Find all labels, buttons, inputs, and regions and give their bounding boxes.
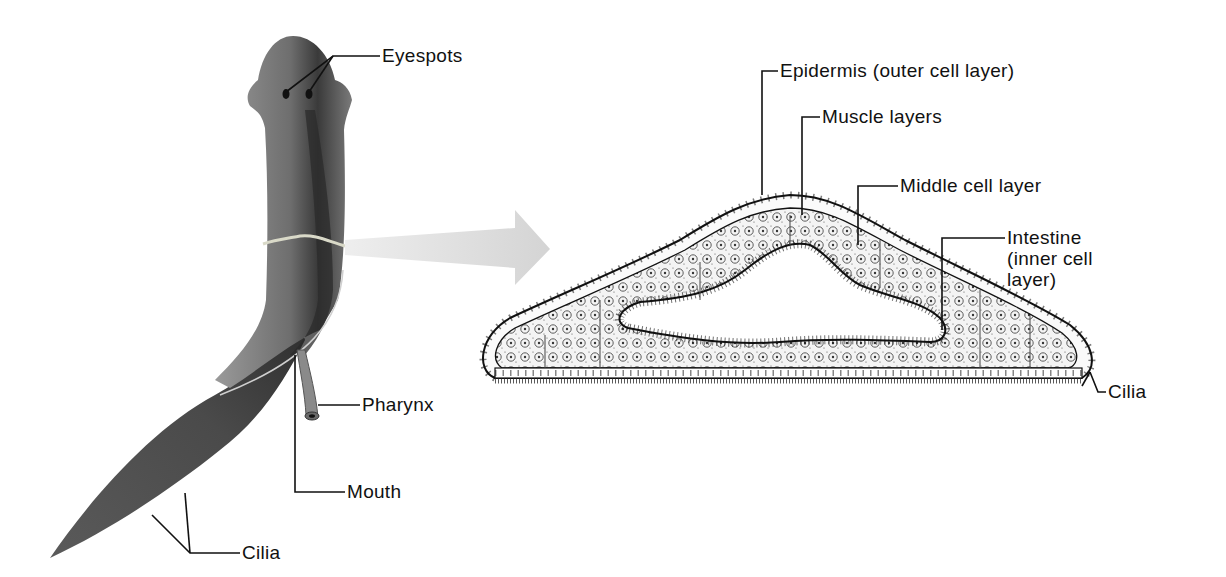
label-epidermis: Epidermis (outer cell layer): [780, 60, 1014, 81]
label-middle-cell-layer: Middle cell layer: [900, 175, 1041, 196]
label-muscle-layers: Muscle layers: [822, 106, 942, 127]
cross-section: [483, 195, 1092, 381]
label-cilia-right: Cilia: [1108, 381, 1146, 402]
section-arrow: [345, 210, 550, 285]
label-intestine: Intestine (inner cell layer): [1007, 227, 1137, 290]
flatworm-body: [50, 36, 352, 558]
label-pharynx: Pharynx: [362, 394, 434, 415]
label-cilia-left: Cilia: [242, 542, 280, 563]
label-eyespots: Eyespots: [382, 45, 463, 66]
label-mouth: Mouth: [347, 481, 401, 502]
flatworm-diagram: Eyespots Pharynx Mouth Cilia Epidermis (…: [0, 0, 1226, 577]
